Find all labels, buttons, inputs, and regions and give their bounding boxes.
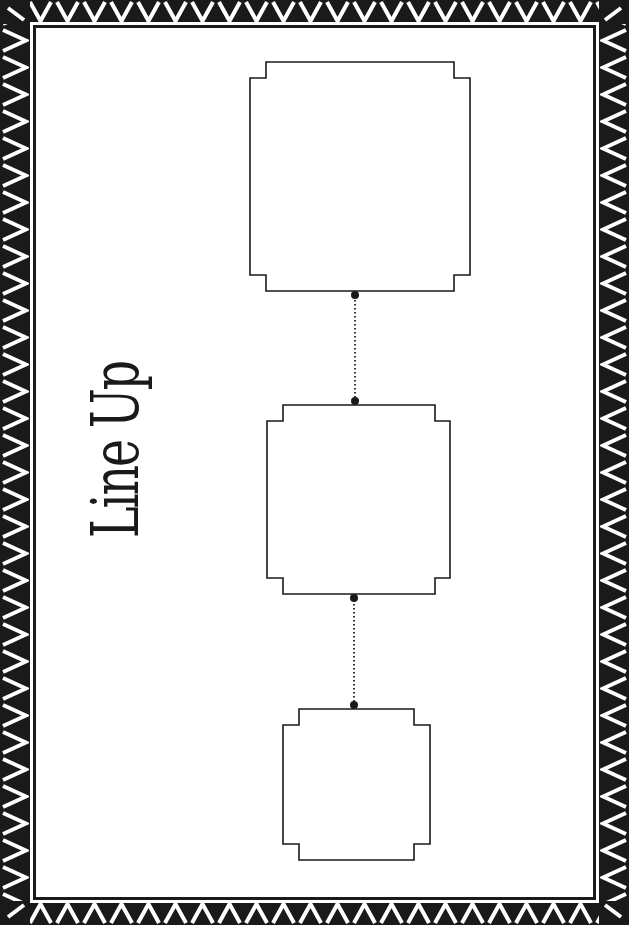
connector-dot-top [350, 594, 358, 602]
lineup-box-2[interactable] [267, 405, 450, 594]
connector-dot-top [351, 291, 359, 299]
connector-2-3 [350, 594, 358, 709]
lineup-diagram [0, 0, 629, 925]
lineup-box-1[interactable] [250, 62, 470, 291]
connector-dot-bottom [351, 397, 359, 405]
connector-dot-bottom [350, 701, 358, 709]
connector-1-2 [351, 291, 359, 405]
lineup-box-3[interactable] [283, 709, 430, 860]
